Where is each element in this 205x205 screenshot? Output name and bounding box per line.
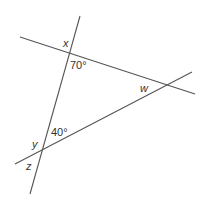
angle-label-w: w xyxy=(140,83,148,94)
angle-label-70: 70° xyxy=(70,60,87,71)
angle-label-y: y xyxy=(32,139,38,150)
lower-line xyxy=(15,72,192,164)
upper-line xyxy=(20,37,195,94)
geometry-diagram xyxy=(0,0,205,205)
angle-label-40: 40° xyxy=(51,127,68,138)
angle-label-z: z xyxy=(26,161,32,172)
angle-label-x: x xyxy=(63,38,69,49)
